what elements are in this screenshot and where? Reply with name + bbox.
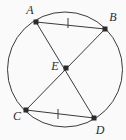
- chord-cd: [26, 110, 94, 118]
- geometry-figure: A B C D E: [0, 0, 126, 140]
- point-a: [34, 20, 39, 25]
- vertex-label-e: E: [51, 60, 58, 72]
- point-e: [64, 66, 69, 71]
- point-d: [92, 116, 97, 121]
- chord-ab: [36, 22, 105, 29]
- vertex-label-c: C: [13, 110, 21, 122]
- point-b: [103, 27, 108, 32]
- vertex-label-a: A: [26, 4, 33, 16]
- vertex-label-b: B: [109, 11, 116, 23]
- vertex-label-d: D: [96, 124, 105, 136]
- point-c: [24, 108, 29, 113]
